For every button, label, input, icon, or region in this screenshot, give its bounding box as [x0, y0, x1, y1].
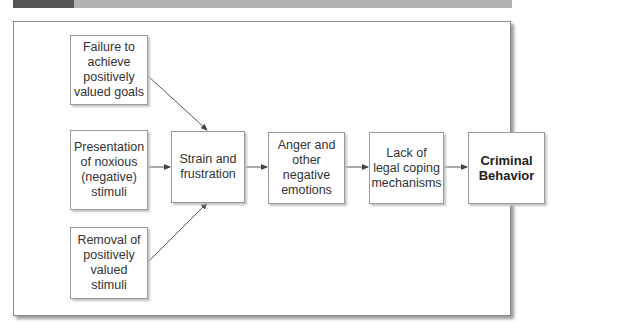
arrow-failure-to-strain [148, 76, 207, 130]
node-criminal-behavior: Criminal Behavior [468, 132, 545, 204]
node-noxious: Presentation of noxious (negative) stimu… [70, 130, 148, 210]
node-lack: Lack of legal coping mechanisms [369, 132, 444, 204]
node-removal: Removal of positively valued stimuli [70, 227, 148, 299]
node-strain: Strain and frustration [171, 131, 245, 203]
node-anger: Anger and other negative emotions [268, 132, 345, 204]
arrow-removal-to-strain [148, 203, 207, 262]
node-failure: Failure to achieve positively valued goa… [70, 35, 148, 105]
